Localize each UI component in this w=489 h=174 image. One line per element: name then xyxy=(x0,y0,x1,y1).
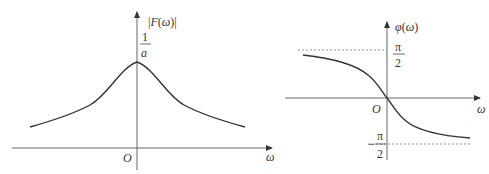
upper-asymptote-label: π 2 xyxy=(393,40,405,70)
two-denominator: 2 xyxy=(377,147,383,161)
y-axis-label: |F(ω)| xyxy=(148,15,177,29)
two-denominator: 2 xyxy=(395,56,401,70)
x-axis-label: ω xyxy=(266,150,274,164)
origin-label: O xyxy=(123,151,132,165)
phase-plot: φ(ω) π 2 − π 2 O ω xyxy=(285,20,485,161)
pi-numerator: π xyxy=(377,129,383,143)
pi-numerator: π xyxy=(395,40,401,54)
spectrum-figure: |F(ω)| 1 a O ω φ(ω) π 2 − π 2 O ω xyxy=(0,0,489,174)
peak-value-label: 1 a xyxy=(140,30,151,60)
peak-numerator: 1 xyxy=(142,30,148,44)
lower-asymptote-label: − π 2 xyxy=(368,129,386,161)
peak-denominator: a xyxy=(141,46,147,60)
origin-label: O xyxy=(372,102,381,116)
x-axis-label: ω xyxy=(477,102,485,116)
y-axis-label: φ(ω) xyxy=(395,20,418,34)
amplitude-plot: |F(ω)| 1 a O ω xyxy=(12,12,274,170)
minus-sign: − xyxy=(368,137,375,151)
